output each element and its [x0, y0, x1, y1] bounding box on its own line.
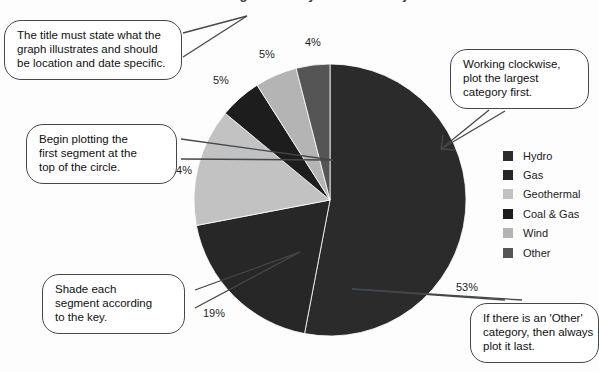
- legend-label-hydro: Hydro: [523, 150, 552, 162]
- callout-shade-note: Shade each segment according to the key.: [42, 274, 185, 334]
- legend-label-coal-gas: Coal & Gas: [523, 208, 579, 220]
- callout-start-note-line-1: Begin plotting the: [39, 132, 165, 146]
- legend-swatch-wind: [503, 228, 513, 238]
- callout-shade-note-line-2: segment according: [55, 296, 173, 310]
- pie-label-other: 4%: [305, 36, 321, 48]
- legend-swatch-other: [503, 248, 513, 258]
- callout-title-note-line-1: The title must state what the: [17, 28, 170, 42]
- pie-label-coal-gas: 5%: [213, 74, 229, 86]
- legend-item-wind: Wind: [503, 224, 595, 243]
- callout-clockwise-note-line-2: plot the largest: [463, 71, 577, 85]
- callout-start-note: Begin plotting the first segment at the …: [26, 124, 177, 184]
- legend-label-geothermal: Geothermal: [523, 188, 580, 200]
- pie-label-wind: 5%: [259, 48, 275, 60]
- pie-chart-svg: [193, 63, 467, 337]
- legend-swatch-geothermal: [503, 189, 513, 199]
- legend-item-geothermal: Geothermal: [503, 185, 595, 204]
- callout-start-note-line-3: top of the circle.: [39, 160, 165, 174]
- pie-chart: [193, 63, 467, 337]
- legend-label-other: Other: [523, 247, 551, 259]
- legend-label-gas: Gas: [523, 169, 543, 181]
- leader-title-note-b: [183, 16, 247, 57]
- callout-title-note-line-3: be location and date specific.: [17, 56, 170, 70]
- callout-clockwise-note-line-3: category first.: [463, 85, 577, 99]
- legend-item-coal-gas: Coal & Gas: [503, 204, 595, 223]
- legend-swatch-coal-gas: [503, 209, 513, 219]
- callout-clockwise-note: Working clockwise, plot the largest cate…: [450, 49, 589, 109]
- chart-title-text: Showing Electricity Generation by Source: [192, 0, 459, 2]
- legend-item-gas: Gas: [503, 165, 595, 184]
- chart-legend: Hydro Gas Geothermal Coal & Gas Wind Oth…: [503, 146, 595, 262]
- callout-shade-note-line-1: Shade each: [55, 282, 173, 296]
- chart-title-clipped: Showing Electricity Generation by Source: [0, 0, 599, 9]
- callout-start-note-line-2: first segment at the: [39, 146, 165, 160]
- legend-swatch-gas: [503, 170, 513, 180]
- callout-title-note: The title must state what the graph illu…: [4, 20, 182, 80]
- legend-swatch-hydro: [503, 151, 513, 161]
- callout-shade-note-line-3: to the key.: [55, 310, 173, 324]
- callout-other-note-line-3: plot it last.: [483, 339, 587, 353]
- leader-title-note-a: [183, 16, 247, 33]
- pie-slice-group: [194, 64, 466, 336]
- callout-other-note-line-2: category, then always: [483, 325, 587, 339]
- legend-item-hydro: Hydro: [503, 146, 595, 165]
- callout-other-note: If there is an 'Other' category, then al…: [470, 303, 599, 363]
- callout-title-note-line-2: graph illustrates and should: [17, 42, 170, 56]
- legend-label-wind: Wind: [523, 227, 548, 239]
- legend-item-other: Other: [503, 243, 595, 262]
- pie-label-gas: 19%: [203, 307, 225, 319]
- figure-canvas: Showing Electricity Generation by Source…: [0, 0, 599, 372]
- callout-other-note-line-1: If there is an 'Other': [483, 311, 587, 325]
- callout-clockwise-note-line-1: Working clockwise,: [463, 57, 577, 71]
- pie-label-hydro: 53%: [456, 281, 478, 293]
